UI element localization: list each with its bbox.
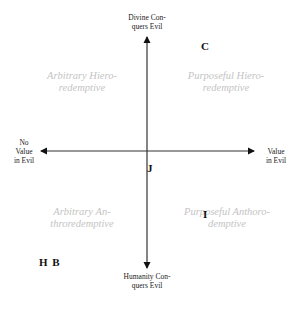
axis-label-right-line1: Value (260, 147, 292, 156)
axis-label-top-line2: quers Evil (117, 22, 177, 31)
quadrant-bottom-right-line2: demptive (168, 218, 286, 230)
marker-c: C (201, 40, 209, 52)
quadrant-top-right: Purposeful Hiero- redemptive (170, 70, 282, 94)
axis-label-right-line2: in Evil (260, 156, 292, 165)
quadrant-bottom-left: Arbitrary An- throredemptive (28, 206, 136, 230)
marker-hb: H B (39, 256, 61, 268)
axis-label-left-line2: Value (10, 147, 38, 156)
quadrant-top-right-line2: redemptive (170, 82, 282, 94)
axis-label-left: No Value in Evil (10, 138, 38, 165)
quadrant-top-left-line2: redemptive (28, 82, 136, 94)
quadrant-bottom-left-line2: throredemptive (28, 218, 136, 230)
axis-label-bottom-line1: Humanity Con- (114, 272, 180, 281)
marker-j: J (147, 162, 153, 174)
quadrant-bottom-right: Purposeful Anthoro- demptive (168, 206, 286, 230)
quadrant-top-right-line1: Purposeful Hiero- (170, 70, 282, 82)
axis-label-top-line1: Divine Con- (117, 13, 177, 22)
quadrant-diagram: Divine Con- quers Evil Humanity Con- que… (0, 0, 298, 309)
axis-label-left-line3: in Evil (10, 156, 38, 165)
axis-label-left-line1: No (10, 138, 38, 147)
quadrant-bottom-left-line1: Arbitrary An- (28, 206, 136, 218)
axis-label-top: Divine Con- quers Evil (117, 13, 177, 31)
quadrant-top-left-line1: Arbitrary Hiero- (28, 70, 136, 82)
axis-label-right: Value in Evil (260, 147, 292, 165)
marker-i: I (203, 208, 207, 220)
axis-label-bottom: Humanity Con- quers Evil (114, 272, 180, 290)
quadrant-bottom-right-line1: Purposeful Anthoro- (168, 206, 286, 218)
quadrant-top-left: Arbitrary Hiero- redemptive (28, 70, 136, 94)
axis-label-bottom-line2: quers Evil (114, 281, 180, 290)
